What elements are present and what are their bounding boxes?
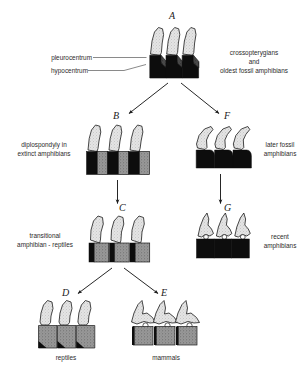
panel-letter-g: G [224,203,231,213]
panel-letter-d: D [62,288,69,298]
caption-c: transitional amphibian - reptiles [6,231,84,249]
panel-b-vertebrae [87,125,150,175]
arrow-a-to-b [129,83,168,114]
panel-e-vertebrae [132,301,200,346]
caption-f: later fossil amphibians [256,140,304,158]
arrow-c-to-d [78,268,112,294]
panel-letter-b: B [113,111,119,121]
caption-e: mammals [136,353,196,362]
annotation-leader-lines [88,58,147,71]
panel-f-vertebrae [196,127,251,169]
panel-letter-a: A [169,11,175,21]
panel-d-vertebrae [39,301,95,349]
panel-g-vertebrae [197,213,251,258]
panel-a-vertebrae [150,28,199,79]
vertebral-evolution-diagram: A B C D E F G pleurocentrum hypocentrum … [0,0,307,371]
panel-letter-f: F [224,111,230,121]
caption-b: diplospondyly in extinct amphibians [6,140,82,158]
label-pleurocentrum: pleurocentrum [12,53,92,62]
arrow-a-to-f [181,83,219,114]
arrow-c-to-e [124,268,158,294]
caption-a: crossopterygians and oldest fossil amphi… [205,48,303,75]
panel-c-vertebrae [89,216,150,262]
label-hypocentrum: hypocentrum [8,66,88,75]
panel-letter-e: E [161,288,167,298]
caption-g: recent amphibians [256,232,304,250]
caption-d: reptiles [37,353,95,362]
panel-letter-c: C [119,203,126,213]
